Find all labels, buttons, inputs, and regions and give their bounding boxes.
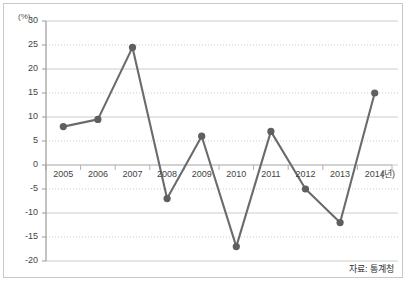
data-line — [63, 47, 374, 246]
data-point — [60, 123, 67, 130]
data-point — [198, 133, 205, 140]
x-axis-tick-label: 2012 — [295, 170, 315, 179]
y-axis-tick-label: 25 — [12, 40, 38, 49]
y-axis-tick-label: -20 — [12, 256, 38, 265]
x-axis-tick-label: 2005 — [53, 170, 73, 179]
y-axis-tick-label: -15 — [12, 232, 38, 241]
y-axis-tick-label: -10 — [12, 208, 38, 217]
y-axis-tick-label: 15 — [12, 88, 38, 97]
data-point — [129, 44, 136, 51]
x-axis-tick-label: 2013 — [330, 170, 350, 179]
data-point — [233, 243, 240, 250]
x-axis-tick-label: 2006 — [88, 170, 108, 179]
gridlines-group — [46, 21, 398, 261]
y-axis-tick-label: 20 — [12, 64, 38, 73]
data-point — [371, 89, 378, 96]
x-axis-tick-label: 2008 — [157, 170, 177, 179]
x-axis-tick-label: 2011 — [261, 170, 280, 179]
x-axis-unit-label: (년) — [381, 170, 395, 179]
data-point — [302, 185, 309, 192]
y-axis-tick-label: 30 — [12, 16, 38, 25]
y-axis-tick-label: 5 — [12, 136, 38, 145]
source-note: 자료: 통계청 — [349, 262, 394, 275]
data-point — [94, 116, 101, 123]
line-chart-plot — [0, 0, 406, 281]
data-point — [267, 128, 274, 135]
data-point — [164, 195, 171, 202]
x-axis-tick-label: 2009 — [192, 170, 212, 179]
x-axis-tick-label: 2010 — [226, 170, 246, 179]
y-axis-tick-label: -5 — [12, 184, 38, 193]
data-point-markers-group — [60, 44, 379, 250]
y-axis-tick-label: 10 — [12, 112, 38, 121]
data-point — [337, 219, 344, 226]
y-axis-tick-label: 0 — [12, 160, 38, 169]
chart-figure: (%) 302520151050-5-10-15-20 200520062007… — [0, 0, 406, 281]
x-axis-tick-label: 2007 — [122, 170, 142, 179]
